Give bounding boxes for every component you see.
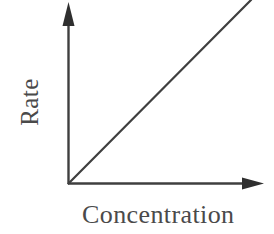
x-axis-arrowhead-icon	[242, 178, 264, 190]
data-series-line	[69, 0, 252, 184]
y-axis-arrowhead-icon	[63, 2, 75, 26]
chart-figure: Rate Concentration	[0, 0, 274, 234]
y-axis-label: Rate	[0, 72, 72, 132]
x-axis-label: Concentration	[82, 200, 235, 230]
